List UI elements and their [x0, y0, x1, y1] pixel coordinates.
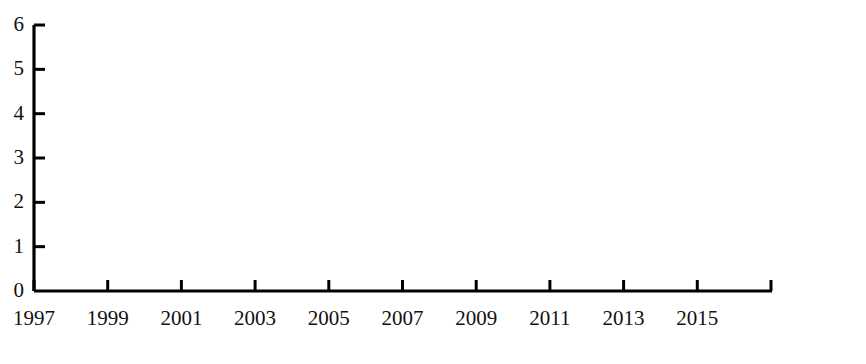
- y-axis-tick-label: 5: [2, 58, 24, 79]
- y-axis-tick-label: 0: [2, 280, 24, 301]
- y-axis-ticks: [34, 25, 45, 247]
- y-axis-tick-label: 3: [2, 147, 24, 168]
- x-axis-tick-label: 2001: [160, 308, 202, 329]
- x-axis-tick-label: 2011: [529, 308, 570, 329]
- x-axis-tick-label: 2009: [455, 308, 497, 329]
- y-axis-tick-label: 1: [2, 236, 24, 257]
- x-axis-tick-label: 2007: [382, 308, 424, 329]
- x-axis-tick-label: 1999: [87, 308, 129, 329]
- x-axis-tick-label: 2015: [676, 308, 718, 329]
- x-axis-tick-label: 2013: [603, 308, 645, 329]
- x-axis-tick-label: 1997: [13, 308, 55, 329]
- x-axis-tick-label: 2003: [234, 308, 276, 329]
- y-axis-tick-label: 4: [2, 103, 24, 124]
- y-axis-tick-label: 6: [2, 14, 24, 35]
- chart-plot-area: [0, 0, 866, 364]
- line-chart: 0123456 19971999200120032005200720092011…: [0, 0, 866, 364]
- x-axis-tick-label: 2005: [308, 308, 350, 329]
- y-axis-tick-label: 2: [2, 191, 24, 212]
- x-axis-ticks: [34, 280, 771, 291]
